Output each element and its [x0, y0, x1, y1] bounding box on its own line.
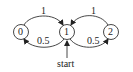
node-0-label: 0 [18, 27, 23, 37]
start-label: start [57, 59, 74, 69]
edge-0-to-1-label: 1 [41, 6, 46, 16]
node-2-label: 2 [108, 27, 113, 37]
state-diagram: 0 1 2 1 1 0.5 0.5 start [0, 0, 133, 72]
edge-2-to-1-label: 1 [91, 6, 96, 16]
edge-1-to-2-label: 0.5 [87, 36, 100, 46]
edge-1-to-0-label: 0.5 [37, 36, 50, 46]
edge-2-to-1 [71, 16, 108, 25]
node-1-label: 1 [64, 27, 69, 37]
edge-0-to-1 [24, 16, 63, 25]
